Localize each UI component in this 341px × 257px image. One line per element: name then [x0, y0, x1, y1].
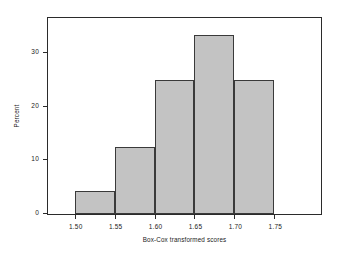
x-axis-tick-label: 1.70	[229, 223, 242, 230]
x-axis-tick: 1.55	[115, 214, 116, 219]
x-axis-tick-label: 1.65	[189, 223, 202, 230]
histogram-bar	[115, 147, 155, 214]
x-axis-tick: 1.65	[194, 214, 195, 219]
histogram-figure: 01020301.501.551.601.651.701.75 Box-Cox …	[0, 0, 341, 257]
x-axis-tick-label: 1.75	[269, 223, 282, 230]
x-axis-tick: 1.75	[274, 214, 275, 219]
x-axis-tick: 1.70	[234, 214, 235, 219]
plot-area	[48, 18, 321, 214]
y-axis-tick: 30	[43, 52, 48, 53]
x-axis-tick-label: 1.60	[149, 223, 162, 230]
x-axis-tick: 1.60	[155, 214, 156, 219]
x-axis-tick-label: 1.55	[109, 223, 122, 230]
histogram-bar	[194, 35, 234, 214]
plot-frame: 01020301.501.551.601.651.701.75	[47, 17, 322, 215]
y-axis-tick-label: 20	[31, 102, 39, 109]
x-axis-title: Box-Cox transformed scores	[47, 236, 322, 243]
y-axis-tick: 10	[43, 159, 48, 160]
y-axis-tick: 0	[43, 213, 48, 214]
y-axis-tick: 20	[43, 106, 48, 107]
y-axis-tick-label: 10	[31, 155, 39, 162]
histogram-bar	[155, 80, 195, 214]
histogram-bar	[234, 80, 274, 214]
x-axis-tick: 1.50	[75, 214, 76, 219]
y-axis-title: Percent	[13, 105, 20, 128]
histogram-bar	[75, 191, 115, 214]
y-axis-tick-label: 0	[35, 209, 39, 216]
x-axis-tick-label: 1.50	[69, 223, 82, 230]
y-axis-tick-label: 30	[31, 48, 39, 55]
